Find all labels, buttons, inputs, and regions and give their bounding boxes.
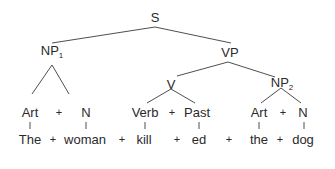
- plus-sign: +: [277, 133, 283, 146]
- plus-sign: +: [226, 133, 232, 146]
- node-np1: NP1: [41, 44, 64, 62]
- node-v: V: [167, 78, 176, 91]
- word-kill: kill: [136, 133, 151, 146]
- edge-vp-v: [177, 62, 228, 76]
- node-art1: Art: [22, 106, 39, 119]
- node-n2: N: [298, 106, 307, 119]
- node-n1: N: [81, 106, 90, 119]
- node-np2: NP2: [271, 76, 294, 94]
- plus-sign: +: [169, 106, 175, 119]
- word-ed: ed: [192, 133, 206, 146]
- edge-np1-n: [52, 65, 69, 94]
- plus-sign: +: [174, 133, 180, 146]
- plus-sign: +: [50, 133, 56, 146]
- word-dog: dog: [292, 133, 314, 146]
- plus-sign: +: [56, 106, 62, 119]
- node-past: Past: [184, 106, 210, 119]
- node-s: S: [151, 11, 160, 24]
- edge-vp-np2: [228, 62, 275, 77]
- edge-np1-art: [32, 65, 52, 94]
- plus-sign: +: [280, 106, 286, 119]
- word-the-2: the: [250, 133, 268, 146]
- node-art2: Art: [251, 106, 268, 119]
- word-woman: woman: [64, 133, 106, 146]
- word-the: The: [19, 133, 41, 146]
- edge-s-vp: [155, 27, 231, 43]
- plus-sign: +: [119, 133, 125, 146]
- node-vp: VP: [221, 46, 238, 59]
- node-verb: Verb: [132, 106, 159, 119]
- edge-s-np1: [52, 27, 155, 43]
